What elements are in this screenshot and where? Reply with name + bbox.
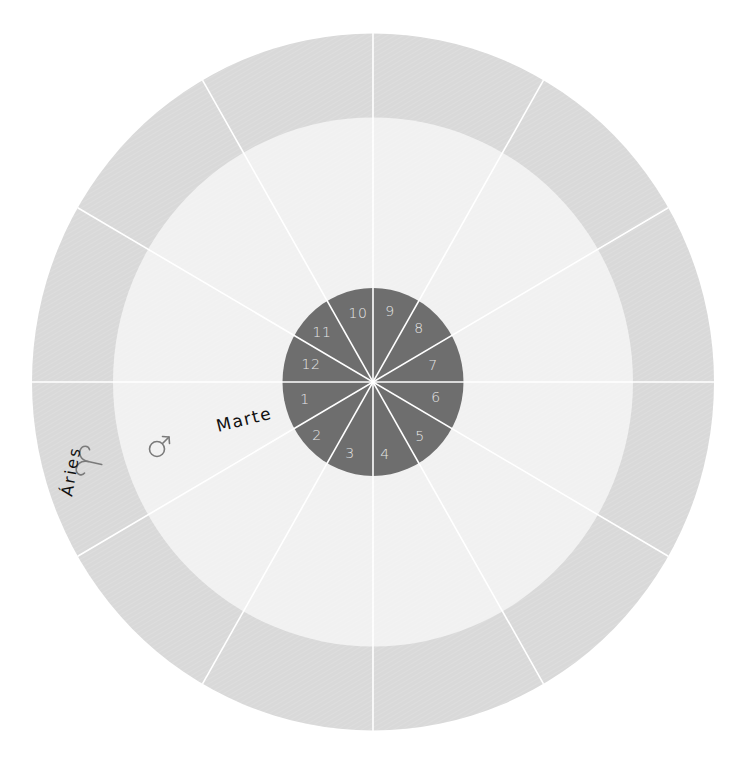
house-number-6: 6 <box>431 389 440 405</box>
house-number-9: 9 <box>385 303 394 319</box>
astrological-chart-wheel: 1 2 3 4 5 6 7 8 9 10 11 12 Marte Áries <box>0 0 747 761</box>
house-number-8: 8 <box>414 320 423 336</box>
house-number-12: 12 <box>302 356 321 372</box>
house-number-4: 4 <box>380 446 389 462</box>
house-number-11: 11 <box>313 324 332 340</box>
house-number-5: 5 <box>415 428 424 444</box>
house-number-2: 2 <box>312 427 321 443</box>
house-number-7: 7 <box>428 357 437 373</box>
house-number-3: 3 <box>345 445 354 461</box>
house-number-10: 10 <box>349 305 368 321</box>
house-number-1: 1 <box>300 391 309 407</box>
